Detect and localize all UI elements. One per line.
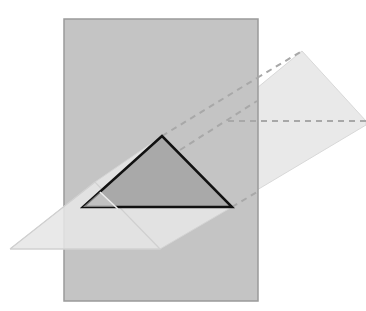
prism-plane-diagram	[0, 0, 366, 311]
